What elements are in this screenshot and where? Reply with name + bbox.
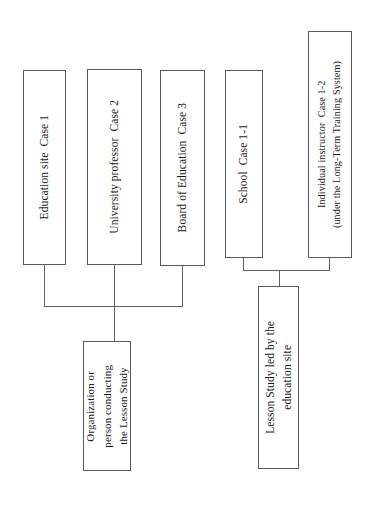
node-individual-instructor: Individual instructor Case 1-2 (under th… xyxy=(308,31,352,258)
node-individual-instructor-label: Individual instructor Case 1-2 (under th… xyxy=(315,61,345,228)
node-education-site: Education site Case 1 xyxy=(23,70,66,265)
node-university-professor: University professor Case 2 xyxy=(87,69,142,265)
lesson-study-flowchart: Education site Case 1 University profess… xyxy=(0,0,371,508)
node-board-of-education-label: Board of Education Case 3 xyxy=(176,103,190,232)
node-lesson-study-led-by-education-site-label: Lesson Study led by the education site xyxy=(262,321,295,434)
node-organization-or-person-label: Organization or person conducting the Le… xyxy=(83,365,131,448)
node-lesson-study-led-by-education-site: Lesson Study led by the education site xyxy=(258,286,299,469)
connector-right-drop xyxy=(279,270,280,287)
connector-education-site-stub xyxy=(44,265,45,306)
connector-university-professor-stub xyxy=(114,265,115,341)
node-organization-or-person: Organization or person conducting the Le… xyxy=(83,341,131,471)
connector-board-of-education-stub xyxy=(182,266,183,306)
node-school-label: School Case 1-1 xyxy=(237,124,251,204)
node-education-site-label: Education site Case 1 xyxy=(38,115,52,219)
node-school: School Case 1-1 xyxy=(225,70,263,258)
node-university-professor-label: University professor Case 2 xyxy=(108,100,122,234)
node-board-of-education: Board of Education Case 3 xyxy=(160,70,205,266)
connector-left-bus xyxy=(44,306,183,307)
connector-right-bus xyxy=(243,270,330,271)
